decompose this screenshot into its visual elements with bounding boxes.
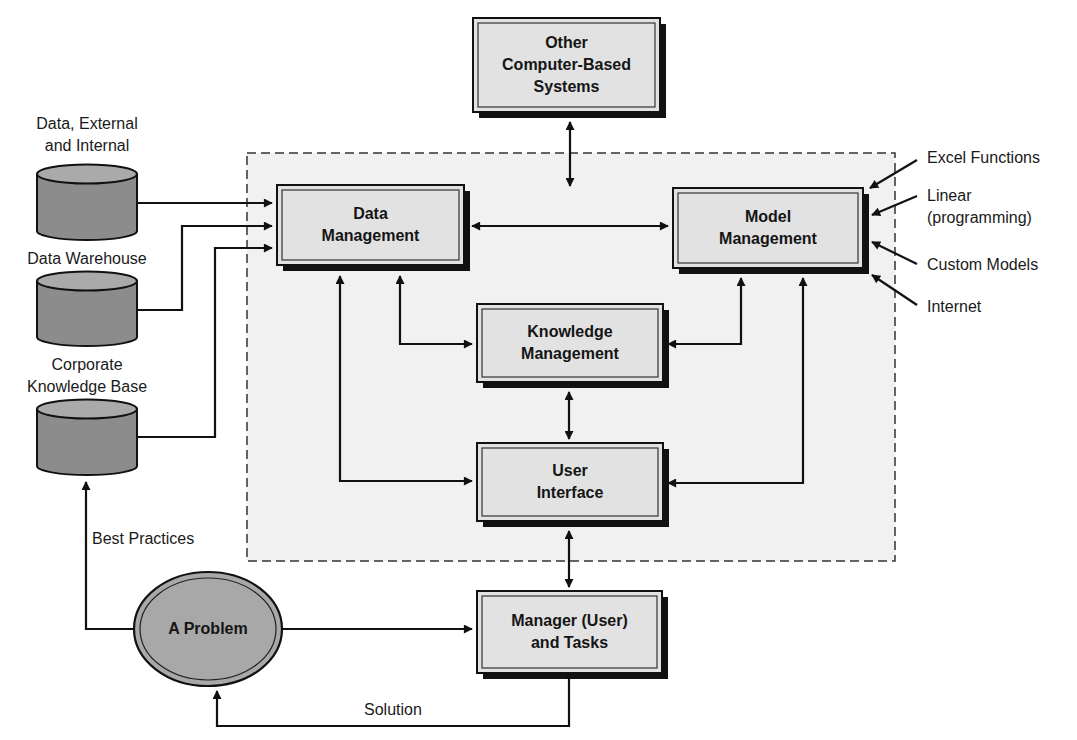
data-management-line-2: Management — [322, 225, 420, 247]
model-management-line-1: Model — [719, 206, 817, 228]
knowledge-management-label: Knowledge Management — [477, 304, 663, 382]
knowledge-management-line-1: Knowledge — [521, 321, 619, 343]
data-management-label: Data Management — [277, 185, 464, 265]
manager-line-2: and Tasks — [511, 632, 627, 654]
manager-line-1: Manager (User) — [511, 610, 627, 632]
database-3-label-line-2: Knowledge Base — [12, 376, 162, 398]
excel-functions-text: Excel Functions — [927, 149, 1040, 166]
other-systems-line-3: Systems — [502, 76, 631, 98]
knowledge-management-line-2: Management — [521, 343, 619, 365]
programming-text: (programming) — [927, 207, 1032, 229]
best-practices-text: Best Practices — [92, 530, 194, 547]
database-1-label: Data, External and Internal — [12, 113, 162, 157]
problem-text: A Problem — [168, 618, 247, 640]
internet-label: Internet — [927, 296, 981, 318]
linear-programming-label: Linear (programming) — [927, 185, 1032, 229]
best-practices-label: Best Practices — [92, 528, 194, 550]
arrow-best-practices — [86, 482, 134, 629]
model-management-line-2: Management — [719, 228, 817, 250]
database-external-internal — [37, 165, 137, 241]
database-1-label-line-2: and Internal — [12, 135, 162, 157]
linear-text: Linear — [927, 185, 1032, 207]
user-interface-line-2: Interface — [537, 482, 604, 504]
user-interface-label: User Interface — [477, 443, 663, 521]
problem-label: A Problem — [134, 572, 282, 686]
other-systems-label: Other Computer-Based Systems — [473, 18, 660, 112]
database-1-label-line-1: Data, External — [12, 113, 162, 135]
solution-label: Solution — [364, 699, 422, 721]
database-2-label: Data Warehouse — [12, 248, 162, 270]
user-interface-line-1: User — [537, 460, 604, 482]
data-management-line-1: Data — [322, 203, 420, 225]
database-corporate-knowledge-base — [37, 400, 137, 476]
database-2-label-line-1: Data Warehouse — [12, 248, 162, 270]
database-3-label: Corporate Knowledge Base — [12, 354, 162, 398]
database-data-warehouse — [37, 272, 137, 347]
model-management-label: Model Management — [673, 188, 863, 268]
excel-functions-label: Excel Functions — [927, 147, 1040, 169]
internet-text: Internet — [927, 298, 981, 315]
other-systems-line-1: Other — [502, 32, 631, 54]
other-systems-line-2: Computer-Based — [502, 54, 631, 76]
database-3-label-line-1: Corporate — [12, 354, 162, 376]
custom-models-text: Custom Models — [927, 256, 1038, 273]
manager-label: Manager (User) and Tasks — [477, 591, 662, 673]
custom-models-label: Custom Models — [927, 254, 1038, 276]
solution-text: Solution — [364, 701, 422, 718]
